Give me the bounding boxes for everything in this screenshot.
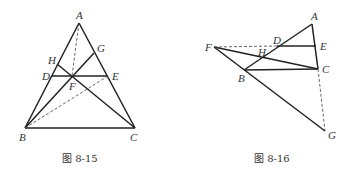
segment-ch (57, 64, 135, 128)
segment-bg (25, 53, 94, 128)
caption-8-15: 图 8-15 (62, 153, 98, 164)
point-label-a: A (310, 10, 318, 22)
point-label-g: G (97, 42, 105, 54)
caption-8-16: 图 8-16 (254, 153, 290, 164)
segment-ab (244, 24, 312, 70)
point-label-b: B (238, 72, 245, 84)
segment-fd-dashed (214, 46, 277, 47)
point-label-c: C (322, 63, 330, 75)
segment-cg-dashed (318, 69, 325, 131)
figure-8-15: A B C D E F G H 图 8-15 (19, 9, 138, 164)
point-label-d: D (272, 34, 281, 46)
point-label-h: H (257, 46, 267, 58)
point-label-a: A (75, 9, 83, 21)
point-label-e: E (111, 70, 119, 82)
point-label-e: E (319, 40, 327, 52)
point-label-f: F (68, 80, 76, 92)
point-label-d: D (41, 70, 50, 82)
figure-8-16: A B C D E F G H 图 8-16 (204, 10, 336, 164)
geometry-figures: A B C D E F G H 图 8-15 A B C D E F G H 图… (0, 0, 353, 176)
point-label-c: C (130, 131, 138, 143)
point-label-f: F (204, 41, 212, 53)
segment-fg (214, 47, 325, 131)
point-label-b: B (19, 131, 26, 143)
segment-bc (244, 69, 318, 70)
point-label-g: G (328, 129, 336, 141)
point-label-h: H (47, 54, 57, 66)
